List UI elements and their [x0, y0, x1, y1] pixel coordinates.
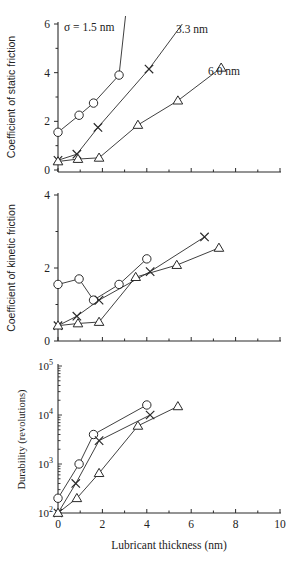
series-annotation: 6.0 nm	[208, 65, 240, 77]
triangle-marker	[172, 260, 182, 268]
series-line	[58, 405, 147, 498]
x-tick-label: 10	[274, 518, 286, 530]
series-triangle	[53, 402, 182, 517]
x-tick-label: 6	[188, 518, 194, 530]
y-tick-label: 6	[44, 18, 50, 30]
series-line	[58, 248, 219, 326]
y-axis-label: Durability (revolutions)	[16, 389, 28, 490]
y-tick-label: 0	[44, 335, 50, 347]
series-cross	[54, 24, 183, 164]
circle-marker	[143, 255, 151, 263]
kinetic-friction-panel: 024Coefficient of kinetic friction	[5, 189, 281, 347]
friction-durability-figure: 0246Coefficient of static frictionσ = 1.…	[0, 0, 298, 567]
y-tick-label: 105	[38, 358, 53, 372]
circle-marker	[143, 401, 151, 409]
triangle-marker	[173, 402, 183, 410]
x-axis-label: Lubricant thickness (nm)	[111, 539, 227, 552]
triangle-marker	[133, 120, 143, 128]
triangle-marker	[214, 243, 224, 251]
x-tick-label: 4	[144, 518, 150, 530]
circle-marker	[54, 280, 62, 288]
x-tick-label: 0	[55, 518, 61, 530]
y-tick-label: 104	[38, 407, 53, 421]
series-annotation: 3.3 nm	[176, 23, 208, 35]
series-annotation: σ = 1.5 nm	[64, 21, 114, 33]
y-tick-label: 103	[38, 456, 53, 470]
series-triangle	[53, 243, 224, 329]
y-axis-label: Coefficient of kinetic friction	[5, 204, 17, 332]
cross-marker	[73, 312, 81, 320]
cross-marker	[72, 479, 80, 487]
y-tick-label: 102	[38, 505, 53, 519]
x-tick-label: 2	[100, 518, 106, 530]
circle-marker	[75, 111, 83, 119]
static-friction-panel: 0246Coefficient of static frictionσ = 1.…	[5, 14, 281, 176]
y-tick-label: 2	[44, 115, 50, 127]
triangle-marker	[133, 421, 143, 429]
triangle-marker	[94, 153, 104, 161]
circle-marker	[54, 494, 62, 502]
circle-marker	[54, 128, 62, 136]
circle-marker	[89, 99, 97, 107]
y-tick-label: 4	[44, 67, 50, 79]
cross-marker	[146, 411, 154, 419]
y-tick-label: 0	[44, 164, 50, 176]
circle-marker	[115, 71, 123, 79]
cross-marker	[145, 65, 153, 73]
y-tick-label: 2	[44, 262, 50, 274]
triangle-marker	[73, 154, 83, 162]
cross-marker	[200, 233, 208, 241]
series-circle	[54, 401, 151, 503]
y-tick-label: 4	[44, 189, 50, 201]
durability-panel: 1021031041050246810Durability (revolutio…	[16, 358, 286, 530]
circle-marker	[75, 460, 83, 468]
x-tick-label: 8	[233, 518, 239, 530]
cross-marker	[95, 436, 103, 444]
y-axis-label: Coefficient of static friction	[5, 36, 17, 159]
circle-marker	[75, 275, 83, 283]
triangle-marker	[173, 96, 183, 104]
cross-marker	[94, 123, 102, 131]
